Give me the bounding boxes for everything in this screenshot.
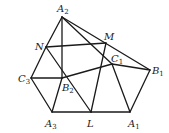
- segment-M-L: [91, 43, 106, 112]
- point-label-A2: A2: [56, 3, 69, 16]
- point-label-L: L: [86, 118, 94, 129]
- segment-N-M: [46, 43, 106, 47]
- point-label-B1: B1: [151, 65, 164, 78]
- segment-C1-B2: [62, 64, 112, 78]
- point-label-A3: A3: [44, 118, 57, 131]
- segment-C1-A1: [112, 64, 130, 112]
- point-label-C3: C3: [18, 73, 30, 86]
- point-label-M: M: [103, 31, 115, 42]
- edges-group: [31, 17, 150, 112]
- segment-A3-B2: [52, 78, 62, 112]
- point-label-A1: A1: [127, 118, 140, 131]
- segment-A1-B1: [130, 70, 150, 112]
- geometry-diagram: A2NMC1B1C3B2A3LA1: [0, 0, 169, 133]
- segment-C3-A3: [31, 78, 52, 112]
- segment-A2-N: [46, 17, 62, 47]
- point-label-N: N: [34, 41, 45, 52]
- segment-N-L: [46, 47, 91, 112]
